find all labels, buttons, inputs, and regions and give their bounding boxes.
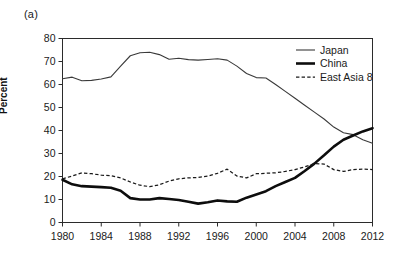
legend-label-east-asia-8: East Asia 8 [320,71,373,83]
y-tick-label: 20 [44,170,56,182]
line-chart: 0102030405060708019801984198819921996200… [0,0,406,261]
y-tick-label: 70 [44,55,56,67]
x-tick-label: 1980 [51,230,75,242]
y-tick-label: 0 [50,216,56,228]
x-tick-label: 2004 [283,230,307,242]
series-line-east-asia-8 [63,164,373,187]
series-line-china [63,128,373,203]
x-tick-label: 1992 [167,230,191,242]
x-tick-label: 2000 [245,230,269,242]
y-tick-label: 60 [44,78,56,90]
figure-panel-a: (a) Percent 0102030405060708019801984198… [0,0,406,261]
legend-label-japan: Japan [320,44,349,56]
x-tick-label: 2008 [322,230,346,242]
y-tick-label: 30 [44,147,56,159]
y-tick-label: 80 [44,32,56,44]
x-tick-label: 1984 [90,230,114,242]
x-tick-label: 1996 [206,230,230,242]
y-tick-label: 50 [44,101,56,113]
legend-label-china: China [320,57,348,69]
y-tick-label: 10 [44,193,56,205]
y-tick-label: 40 [44,124,56,136]
x-tick-label: 1988 [128,230,152,242]
x-tick-label: 2012 [361,230,385,242]
